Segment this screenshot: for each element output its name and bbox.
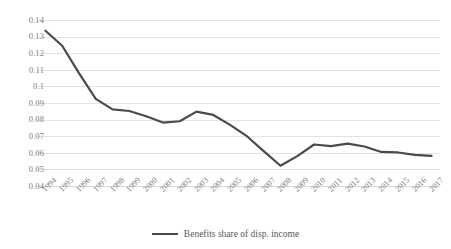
plot-area: 0.140.130.120.110.10.090.080.070.060.050… — [0, 0, 451, 196]
line-chart: 0.140.130.120.110.10.090.080.070.060.050… — [0, 0, 451, 249]
legend-label: Benefits share of disp. income — [184, 229, 299, 239]
chart-legend: Benefits share of disp. income — [0, 229, 451, 239]
legend-item: Benefits share of disp. income — [152, 229, 299, 239]
series-lines — [0, 0, 451, 196]
series-line — [45, 31, 431, 166]
x-axis-tick-labels: 1994199519961997199819992000200120022003… — [0, 188, 451, 228]
legend-color-swatch — [152, 233, 178, 236]
